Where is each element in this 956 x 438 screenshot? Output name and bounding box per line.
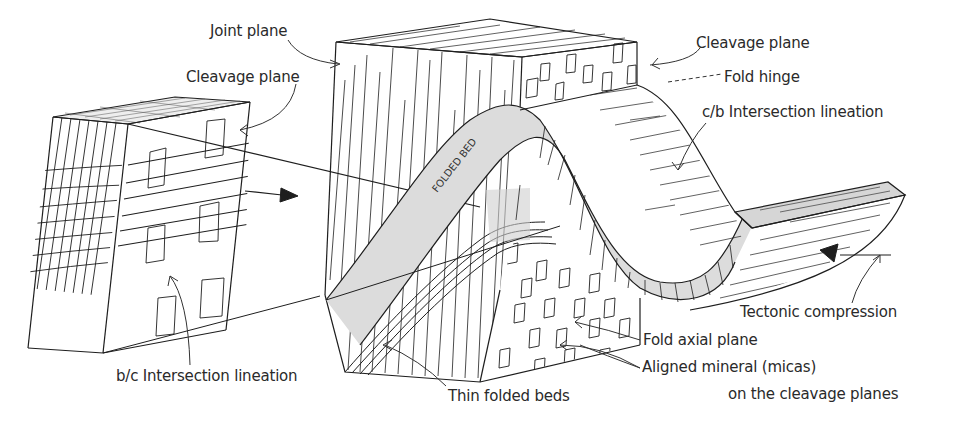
label-cleavage-plane-right: Cleavage plane (696, 36, 809, 51)
label-aligned-mineral-cont: on the cleavage planes (728, 387, 898, 402)
label-aligned-mineral: Aligned mineral (micas) (642, 360, 816, 375)
label-fold-hinge: Fold hinge (724, 70, 800, 85)
transfer-arrow (245, 188, 298, 202)
label-joint-plane: Joint plane (210, 24, 287, 39)
label-fold-axial-plane: Fold axial plane (643, 333, 758, 348)
large-block (325, 19, 905, 382)
label-cb-intersection-lineation: c/b Intersection lineation (702, 105, 883, 120)
fold-cleavage-diagram: FOLDED BED Joint plane Cleavage plane Cl… (0, 0, 956, 438)
label-tectonic-compression: Tectonic compression (740, 305, 897, 320)
label-thin-folded-beds: Thin folded beds (448, 389, 570, 404)
label-cleavage-plane-left: Cleavage plane (186, 70, 299, 85)
label-bc-intersection-lineation: b/c Intersection lineation (116, 369, 297, 384)
